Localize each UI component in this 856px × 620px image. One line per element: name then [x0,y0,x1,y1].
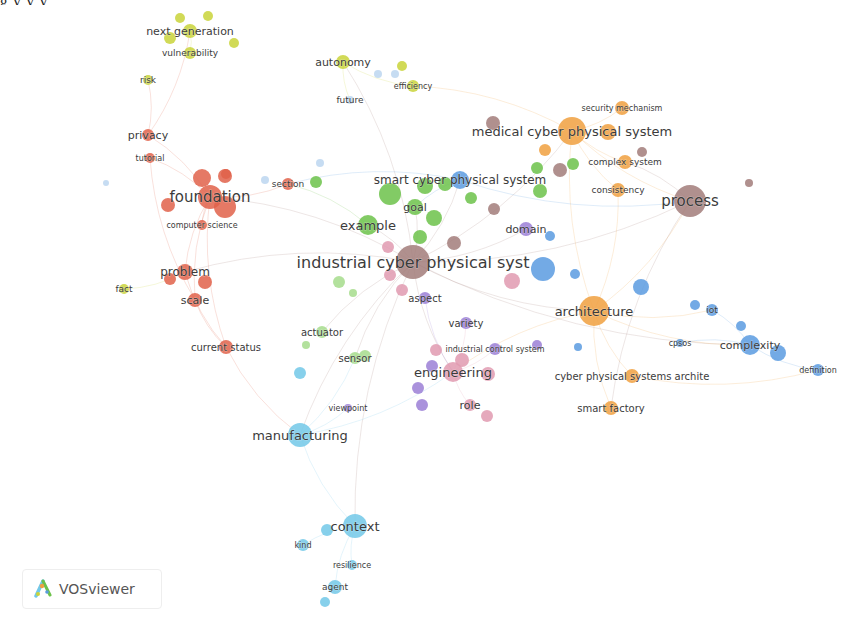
network-node[interactable] [430,344,442,356]
node-label[interactable]: complex system [588,157,662,167]
node-label[interactable]: agent [322,582,348,592]
label-layer: next generationvulnerabilityriskautonomy… [115,25,836,592]
node-label[interactable]: resilience [333,561,371,570]
network-node[interactable] [229,38,239,48]
network-node[interactable] [531,162,543,174]
node-label[interactable]: domain [505,223,546,236]
node-label[interactable]: aspect [408,293,441,304]
node-label[interactable]: industrial cyber physical syst [297,253,530,272]
node-label[interactable]: process [661,192,719,210]
network-node[interactable] [302,341,310,349]
network-node[interactable] [221,169,231,179]
network-node[interactable] [391,70,399,78]
network-node[interactable] [736,321,746,331]
node-label[interactable]: security mechanism [582,104,663,113]
network-node[interactable] [447,236,461,250]
edge [226,347,300,435]
network-node[interactable] [553,163,567,177]
network-node[interactable] [465,192,477,204]
node-label[interactable]: risk [140,75,157,85]
node-label[interactable]: autonomy [315,56,371,69]
node-label[interactable]: future [336,95,364,105]
node-layer [119,24,824,594]
node-label[interactable]: engineering [414,365,492,380]
node-label[interactable]: variety [449,318,484,329]
network-node[interactable] [745,179,753,187]
network-node[interactable] [412,382,424,394]
node-label[interactable]: problem [160,265,210,279]
network-node[interactable] [567,158,579,170]
network-node[interactable] [397,61,407,71]
node-label[interactable]: sensor [338,353,372,364]
network-node[interactable] [413,230,427,244]
node-label[interactable]: foundation [170,188,251,206]
network-node[interactable] [320,597,330,607]
network-map[interactable]: next generationvulnerabilityriskautonomy… [0,0,856,620]
node-label[interactable]: architecture [555,304,634,319]
node-label[interactable]: cyber physical systems archite [555,371,710,382]
network-node[interactable] [504,273,520,289]
node-label[interactable]: definition [799,366,837,375]
edge [300,435,355,526]
network-node[interactable] [374,70,382,78]
node-label[interactable]: privacy [128,129,169,142]
network-node[interactable] [103,180,109,186]
edge [207,197,226,347]
node-label[interactable]: scale [181,294,210,307]
node-label[interactable]: complexity [720,339,781,352]
network-node[interactable] [333,276,345,288]
network-node[interactable] [382,241,394,253]
network-node[interactable] [396,284,408,296]
network-node[interactable] [633,279,649,295]
network-node[interactable] [570,269,580,279]
node-label[interactable]: fact [115,284,133,294]
network-node[interactable] [574,343,582,351]
node-label[interactable]: medical cyber physical system [472,124,672,139]
node-label[interactable]: actuator [301,327,344,338]
node-label[interactable]: vulnerability [162,48,219,58]
network-node[interactable] [294,367,306,379]
unlabeled-node-layer [103,11,786,607]
node-label[interactable]: computer science [166,221,237,230]
node-label[interactable]: next generation [146,25,234,38]
network-node[interactable] [349,289,357,297]
node-label[interactable]: goal [403,201,427,214]
brand-name: VOSviewer [59,581,135,597]
node-label[interactable]: tutorial [136,154,165,163]
network-node[interactable] [175,13,185,23]
network-node[interactable] [690,300,700,310]
node-label[interactable]: role [460,399,481,412]
edge [322,262,413,332]
network-node[interactable] [539,144,551,156]
node-label[interactable]: kind [294,541,311,550]
network-node[interactable] [531,257,555,281]
node-label[interactable]: smart factory [577,403,645,414]
network-node[interactable] [488,203,500,215]
network-node[interactable] [316,159,324,167]
network-node[interactable] [481,410,493,422]
edge [594,190,618,311]
edge [355,262,413,526]
node-label[interactable]: manufacturing [252,428,348,443]
network-node[interactable] [193,169,211,187]
network-node[interactable] [310,176,322,188]
node-label[interactable]: cpsos [669,339,692,348]
node-label[interactable]: consistency [591,185,645,195]
node-label[interactable]: smart cyber physical system [374,173,547,187]
network-node[interactable] [637,147,647,157]
edge [148,80,151,135]
node-label[interactable]: current status [191,342,261,353]
vosviewer-brand-badge: VOSviewer [22,569,162,609]
node-label[interactable]: example [340,218,396,233]
network-node[interactable] [261,176,269,184]
node-label[interactable]: iot [706,305,718,315]
node-label[interactable]: efficiency [394,82,433,91]
node-label[interactable]: section [272,179,304,189]
vosviewer-logo-icon [33,579,53,599]
node-label[interactable]: viewpoint [329,404,368,413]
network-node[interactable] [426,210,442,226]
node-label[interactable]: context [331,519,380,534]
network-node[interactable] [203,11,213,21]
network-node[interactable] [416,399,428,411]
node-label[interactable]: industrial control system [445,345,544,354]
